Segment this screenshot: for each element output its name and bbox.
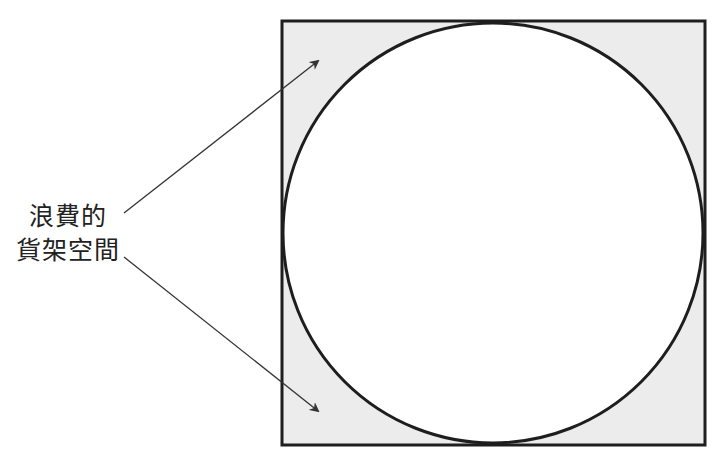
- round-product-circle: [283, 23, 703, 443]
- label-line-1: 浪費的: [8, 200, 128, 234]
- wasted-shelf-space-label: 浪費的 貨架空間: [8, 200, 128, 268]
- label-line-2: 貨架空間: [8, 234, 128, 268]
